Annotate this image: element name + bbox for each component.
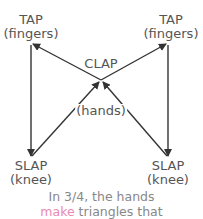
tap-left-node: TAP (fingers) <box>4 13 59 41</box>
tap-right-subtitle: (fingers) <box>144 27 199 41</box>
slap-left-subtitle: (knee) <box>10 173 52 187</box>
slap-right-title: SLAP <box>147 159 189 173</box>
tap-right-title: TAP <box>144 13 199 27</box>
clap-subtitle: (hands) <box>75 104 127 118</box>
slap-right-node: SLAP (knee) <box>147 159 189 187</box>
tap-left-subtitle: (fingers) <box>4 27 59 41</box>
slap-left-title: SLAP <box>10 159 52 173</box>
slap-right-subtitle: (knee) <box>147 173 189 187</box>
slap-left-node: SLAP (knee) <box>10 159 52 187</box>
clap-title: CLAP <box>84 57 117 71</box>
caption-line-2-rest: triangles that <box>75 204 163 219</box>
tap-left-title: TAP <box>4 13 59 27</box>
caption: In 3/4, the hands make triangles that <box>0 189 203 219</box>
tap-right-node: TAP (fingers) <box>144 13 199 41</box>
caption-line-2: make triangles that <box>0 204 203 219</box>
caption-line-1: In 3/4, the hands <box>0 189 203 204</box>
caption-accent-word: make <box>40 204 74 219</box>
